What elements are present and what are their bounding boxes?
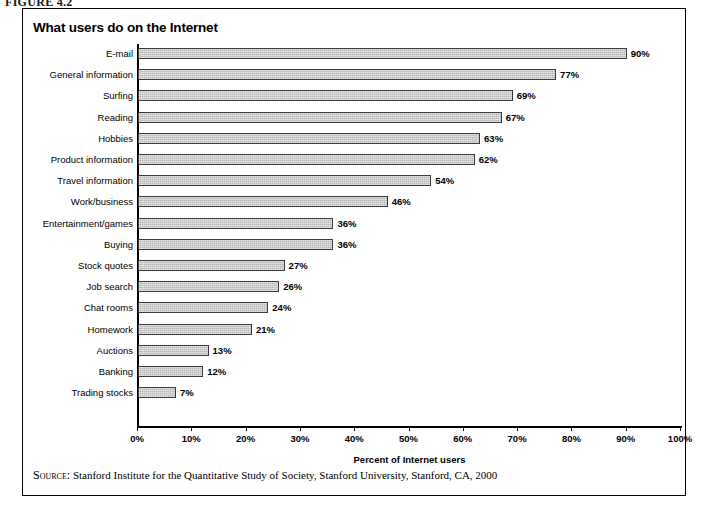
category-label: Travel information [23, 170, 133, 191]
bar-value-label: 27% [289, 259, 308, 272]
x-tick-mark [463, 426, 464, 431]
x-tick-mark [191, 426, 192, 431]
x-tick-mark [409, 426, 410, 431]
bar [138, 366, 203, 377]
x-tick-label: 70% [508, 433, 527, 444]
bar-value-label: 54% [435, 174, 454, 187]
bar [138, 112, 502, 123]
bar-value-label: 26% [283, 280, 302, 293]
bar [138, 239, 333, 250]
x-axis-title: Percent of Internet users [137, 454, 682, 465]
bar-row: Stock quotes27% [23, 255, 684, 276]
category-label: E-mail [23, 43, 133, 64]
x-tick-mark [571, 426, 572, 431]
bar [138, 133, 480, 144]
category-label: Surfing [23, 85, 133, 106]
bar-row: General information77% [23, 64, 684, 85]
bar-row: Auctions13% [23, 340, 684, 361]
x-tick-label: 30% [290, 433, 309, 444]
category-label: Homework [23, 319, 133, 340]
plot-area: E-mail90%General information77%Surfing69… [23, 42, 684, 437]
bar-row: Reading67% [23, 107, 684, 128]
category-label: Auctions [23, 340, 133, 361]
category-label: Reading [23, 107, 133, 128]
x-tick-mark [680, 426, 681, 431]
x-tick-label: 80% [562, 433, 581, 444]
bar [138, 302, 268, 313]
x-tick-mark [137, 426, 138, 431]
chart-title: What users do on the Internet [33, 20, 218, 35]
bar [138, 48, 627, 59]
bar [138, 175, 431, 186]
category-label: Entertainment/games [23, 213, 133, 234]
category-label: Trading stocks [23, 382, 133, 403]
bar-row: Travel information54% [23, 170, 684, 191]
source-label: Source: [33, 468, 70, 482]
bar-value-label: 62% [479, 153, 498, 166]
figure-frame: What users do on the Internet E-mail90%G… [22, 8, 686, 496]
bar-value-label: 46% [392, 195, 411, 208]
category-label: Banking [23, 361, 133, 382]
source-text: Stanford Institute for the Quantitative … [70, 469, 497, 481]
x-tick-mark [354, 426, 355, 431]
bar [138, 387, 176, 398]
x-tick-mark [300, 426, 301, 431]
x-tick-label: 100% [668, 433, 692, 444]
category-label: Chat rooms [23, 297, 133, 318]
x-tick-label: 50% [399, 433, 418, 444]
bar [138, 154, 475, 165]
category-label: Work/business [23, 191, 133, 212]
bar-value-label: 67% [506, 111, 525, 124]
category-label: Stock quotes [23, 255, 133, 276]
bar-value-label: 69% [517, 89, 536, 102]
bar-value-label: 90% [631, 47, 650, 60]
category-label: General information [23, 64, 133, 85]
bar-row: Work/business46% [23, 191, 684, 212]
source-note: Source: Stanford Institute for the Quant… [33, 468, 497, 483]
bar [138, 218, 333, 229]
x-tick-label: 10% [182, 433, 201, 444]
bar [138, 69, 556, 80]
bar-row: Entertainment/games36% [23, 213, 684, 234]
category-label: Hobbies [23, 128, 133, 149]
category-label: Buying [23, 234, 133, 255]
bar [138, 196, 388, 207]
bar-row: E-mail90% [23, 43, 684, 64]
bar [138, 324, 252, 335]
bar-value-label: 63% [484, 132, 503, 145]
category-label: Product information [23, 149, 133, 170]
bar-value-label: 36% [337, 217, 356, 230]
bar-row: Banking12% [23, 361, 684, 382]
bar-value-label: 24% [272, 301, 291, 314]
x-tick-label: 0% [130, 433, 144, 444]
bar-row: Buying36% [23, 234, 684, 255]
bar-value-label: 13% [213, 344, 232, 357]
x-tick-mark [626, 426, 627, 431]
bar-row: Product information62% [23, 149, 684, 170]
bar [138, 90, 513, 101]
x-tick-mark [517, 426, 518, 431]
x-axis-line [137, 426, 682, 428]
bar-value-label: 12% [207, 365, 226, 378]
bar-row: Job search26% [23, 276, 684, 297]
bar-row: Trading stocks7% [23, 382, 684, 403]
bar-row: Homework21% [23, 319, 684, 340]
x-tick-label: 90% [616, 433, 635, 444]
bar [138, 260, 285, 271]
x-tick-label: 20% [236, 433, 255, 444]
bar-row: Surfing69% [23, 85, 684, 106]
x-tick-label: 60% [453, 433, 472, 444]
bar-value-label: 77% [560, 68, 579, 81]
bar [138, 345, 209, 356]
category-label: Job search [23, 276, 133, 297]
x-tick-mark [246, 426, 247, 431]
bar-row: Chat rooms24% [23, 297, 684, 318]
bar [138, 281, 279, 292]
bar-row: Hobbies63% [23, 128, 684, 149]
bar-value-label: 36% [337, 238, 356, 251]
bar-value-label: 7% [180, 386, 194, 399]
x-tick-label: 40% [345, 433, 364, 444]
bar-value-label: 21% [256, 323, 275, 336]
